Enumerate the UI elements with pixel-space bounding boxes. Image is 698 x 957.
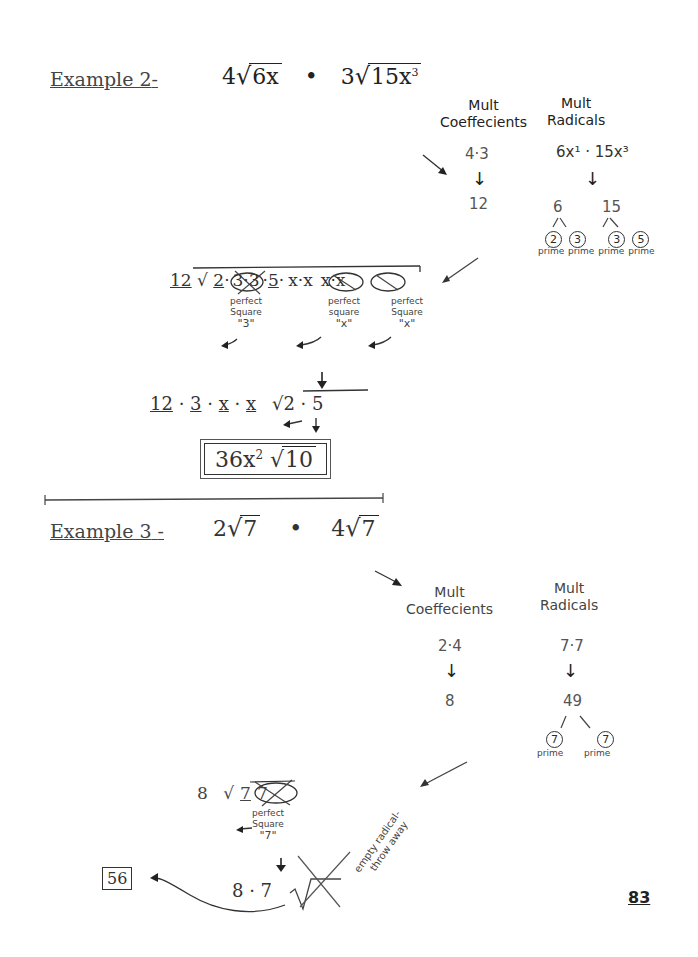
exponent: 3 (411, 66, 418, 79)
prime-label: prime (538, 246, 564, 256)
coefficient-2: 4 (331, 516, 345, 541)
heading-line: Radicals (540, 597, 598, 614)
heading-line: Mult (440, 97, 527, 114)
heading-line: Radicals (547, 112, 605, 129)
pulled-out-value: "7" (252, 830, 284, 841)
coefficient-1: 4 (222, 64, 236, 89)
radicand-term: x·x (288, 270, 313, 290)
radicand-term: 2 (213, 270, 224, 290)
label-dash: - (158, 520, 164, 542)
radical-icon: √ (272, 393, 283, 414)
annotation-line: perfect (230, 296, 262, 307)
prime-labels: prime prime prime prime (538, 246, 655, 256)
ex3-coef-expr: 2·4 (438, 637, 462, 655)
pulled-out-value: "x" (391, 318, 423, 329)
factor-tree-root: 6 (553, 198, 563, 216)
prime-label: prime (584, 748, 610, 758)
perfect-square-annotation: perfect Square "x" (391, 296, 423, 329)
coefficient-1: 2 (213, 516, 227, 541)
outside-coefficient: 12 (170, 270, 192, 290)
heading-line: Mult (547, 95, 605, 112)
heading-line: Coeffecients (406, 601, 493, 618)
answer-coefficient: 36x (215, 447, 255, 472)
inside-radicand: 2 · 5 (283, 393, 323, 414)
coefficient-2: 3 (341, 64, 355, 89)
answer-exponent: 2 (255, 448, 263, 462)
arrow-down-icon: ↓ (585, 168, 600, 189)
outside-factor: 3 (190, 393, 201, 414)
ex3-mult-radicals-heading: Mult Radicals (540, 580, 598, 614)
prime-label: prime (537, 748, 563, 758)
arrow-down-icon: ↓ (444, 660, 459, 681)
perfect-square-annotation: perfect Square "3" (230, 296, 262, 329)
arrow-down-icon: ↓ (472, 168, 487, 189)
prime-label: prime (598, 246, 624, 256)
ex3-mult-coefficients-heading: Mult Coeffecients (406, 584, 493, 618)
ex2-coef-expr: 4·3 (465, 145, 489, 163)
radical-icon: √ (197, 270, 208, 290)
ex3-coef-result: 8 (445, 692, 455, 710)
example-3-problem: 2√7 • 4√7 (213, 514, 379, 542)
radicand-term: x·x (321, 270, 346, 290)
example-3-title: Example 3 (50, 520, 152, 542)
annotation-line: perfect (328, 296, 360, 307)
label-dash: - (152, 68, 158, 90)
outside-factor: 12 (150, 393, 173, 414)
perfect-square-annotation: perfect square "x" (328, 296, 360, 329)
pulled-out-value: "3" (230, 318, 262, 329)
radicand-2: 7 (359, 515, 379, 541)
arrow-down-icon: ↓ (563, 660, 578, 681)
annotation-line: perfect (252, 808, 284, 819)
answer-radicand: 10 (282, 446, 316, 472)
page-number: 83 (628, 888, 650, 907)
ex2-expanded-radical: 12 √ 2·3·3·5·x·xx·x (170, 270, 349, 290)
factor-tree-leaves: 2 3 3 5 (544, 228, 650, 248)
multiply-dot: • (305, 64, 318, 89)
annotation-line: perfect (391, 296, 423, 307)
ex2-mult-coefficients-heading: Mult Coeffecients (440, 97, 527, 131)
heading-line: Mult (406, 584, 493, 601)
radicand-term: 3·3 (233, 270, 260, 290)
example-2-problem: 4√6x • 3√15x3 (222, 62, 421, 90)
ex3-radicals-result: 49 (563, 692, 582, 710)
radicand-1: 7 (240, 515, 260, 541)
radical-icon: √ (223, 783, 234, 803)
radicand-2: 15x (371, 64, 411, 89)
multiply-dot: • (289, 516, 302, 541)
ex2-mult-radicals-heading: Mult Radicals (547, 95, 605, 129)
heading-line: Mult (540, 580, 598, 597)
outside-factor: x (219, 393, 229, 414)
example-2-title: Example 2 (50, 68, 152, 90)
ex3-expanded-radical: 8 √77 (197, 783, 268, 803)
outside-coefficient: 8 (197, 783, 208, 803)
ex3-radicals-expr: 7·7 (560, 637, 584, 655)
prime-labels: prime prime (537, 748, 610, 758)
example-2-label: Example 2- (50, 68, 158, 90)
prime-factor: 7 (546, 731, 563, 748)
prime-factor: 7 (597, 731, 614, 748)
example-3-label: Example 3 - (50, 520, 164, 542)
heading-line: Coeffecients (440, 114, 527, 131)
prime-label: prime (628, 246, 654, 256)
factor-tree-root: 15 (602, 198, 621, 216)
radicand-term: 7 (240, 783, 251, 803)
ex3-simplified-step: 8 · 7 (232, 880, 272, 901)
radicand-term: 7 (257, 783, 268, 803)
ex2-radicals-expr: 6x¹ · 15x³ (556, 143, 629, 161)
outside-factor: x (246, 393, 256, 414)
prime-label: prime (568, 246, 594, 256)
ex2-final-answer: 36x2 √10 (204, 443, 327, 475)
ex2-simplified-step: 12 · 3 · x · x √2 · 5 (150, 393, 323, 414)
pulled-out-value: "x" (328, 318, 360, 329)
radicand-term: 5 (268, 270, 279, 290)
radicand-1: 6x (249, 63, 281, 89)
ex2-coef-result: 12 (469, 195, 488, 213)
factor-tree-leaves: 7 7 (545, 728, 615, 748)
ex3-final-answer: 56 (102, 867, 132, 890)
perfect-square-annotation: perfect Square "7" (252, 808, 284, 841)
